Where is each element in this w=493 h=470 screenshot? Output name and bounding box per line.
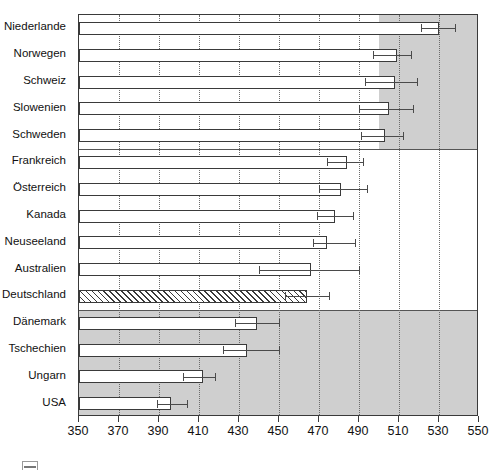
x-tick-450 (278, 416, 279, 422)
error-cap-low (327, 158, 328, 166)
error-cap-low (421, 24, 422, 32)
x-tick-label-530: 530 (418, 424, 458, 438)
x-tick-350 (78, 416, 79, 422)
bar-tschechien (79, 344, 247, 357)
x-tick-label-450: 450 (258, 424, 298, 438)
error-cap-high (411, 51, 412, 59)
error-bar (319, 189, 367, 190)
gridline-510 (399, 15, 400, 415)
y-label-tschechien: Tschechien (8, 343, 66, 355)
x-tick-label-430: 430 (218, 424, 258, 438)
x-tick-370 (118, 416, 119, 422)
error-cap-low (235, 319, 236, 327)
error-cap-low (223, 346, 224, 354)
band-divider (79, 149, 477, 150)
error-cap-low (359, 105, 360, 113)
x-tick-label-410: 410 (178, 424, 218, 438)
error-cap-low (313, 239, 314, 247)
y-label-australien: Australien (15, 263, 66, 275)
y-label-ungarn: Ungarn (28, 370, 66, 382)
error-bar (373, 55, 411, 56)
legend-line (24, 466, 36, 468)
error-cap-high (363, 158, 364, 166)
x-tick-label-550: 550 (458, 424, 493, 438)
error-cap-high (359, 266, 360, 274)
bar-slowenien (79, 102, 389, 115)
x-tick-410 (198, 416, 199, 422)
y-label--sterreich: Österreich (13, 182, 66, 194)
error-bar (327, 162, 363, 163)
bar-norwegen (79, 49, 397, 62)
error-cap-low (361, 132, 362, 140)
x-tick-label-510: 510 (378, 424, 418, 438)
y-label-usa: USA (42, 397, 66, 409)
error-cap-low (317, 212, 318, 220)
bar-frankreich (79, 156, 347, 169)
x-tick-550 (478, 416, 479, 422)
bar-schweiz (79, 76, 395, 89)
error-cap-low (157, 400, 158, 408)
error-cap-high (355, 239, 356, 247)
x-tick-label-350: 350 (58, 424, 98, 438)
error-bar (157, 404, 187, 405)
y-label-neuseeland: Neuseeland (5, 236, 66, 248)
error-cap-low (259, 266, 260, 274)
band-divider (79, 310, 477, 311)
error-bar (285, 296, 329, 297)
error-cap-high (403, 132, 404, 140)
y-label-slowenien: Slowenien (13, 102, 66, 114)
chart-root: NiederlandeNorwegenSchweizSlowenienSchwe… (0, 0, 493, 470)
x-tick-390 (158, 416, 159, 422)
error-bar (313, 243, 355, 244)
x-tick-510 (398, 416, 399, 422)
x-tick-label-490: 490 (338, 424, 378, 438)
plot-area (78, 14, 478, 416)
bar-d-nemark (79, 317, 257, 330)
y-label-kanada: Kanada (26, 209, 66, 221)
error-cap-low (319, 185, 320, 193)
x-tick-label-470: 470 (298, 424, 338, 438)
x-tick-label-370: 370 (98, 424, 138, 438)
error-bar (317, 216, 353, 217)
x-tick-490 (358, 416, 359, 422)
x-tick-530 (438, 416, 439, 422)
bar-kanada (79, 210, 335, 223)
error-bar (183, 377, 215, 378)
bar-niederlande (79, 22, 439, 35)
error-cap-low (183, 373, 184, 381)
legend-swatch-cropped (22, 461, 38, 470)
y-label-frankreich: Frankreich (12, 155, 66, 167)
y-label-deutschland: Deutschland (2, 289, 66, 301)
y-label-schweiz: Schweiz (23, 75, 66, 87)
error-cap-low (373, 51, 374, 59)
x-axis-ticks (78, 416, 478, 423)
y-label-schweden: Schweden (12, 129, 66, 141)
x-tick-470 (318, 416, 319, 422)
error-bar (359, 109, 413, 110)
error-cap-high (413, 105, 414, 113)
error-cap-high (215, 373, 216, 381)
bar-deutschland (79, 290, 307, 303)
error-bar (259, 270, 359, 271)
bar-neuseeland (79, 236, 327, 249)
error-cap-high (353, 212, 354, 220)
error-cap-high (417, 78, 418, 86)
error-bar (361, 136, 403, 137)
error-bar (365, 82, 417, 83)
error-bar (223, 350, 279, 351)
error-cap-high (329, 292, 330, 300)
gridline-530 (439, 15, 440, 415)
error-cap-high (279, 319, 280, 327)
bar-schweden (79, 129, 385, 142)
x-axis-labels: 350370390410430450470490510530550 (0, 424, 493, 442)
error-cap-high (455, 24, 456, 32)
y-label-d-nemark: Dänemark (13, 316, 66, 328)
y-label-norwegen: Norwegen (14, 48, 66, 60)
error-cap-high (187, 400, 188, 408)
bar--sterreich (79, 183, 341, 196)
error-cap-low (365, 78, 366, 86)
error-cap-high (367, 185, 368, 193)
error-cap-low (285, 292, 286, 300)
x-tick-430 (238, 416, 239, 422)
error-cap-high (279, 346, 280, 354)
